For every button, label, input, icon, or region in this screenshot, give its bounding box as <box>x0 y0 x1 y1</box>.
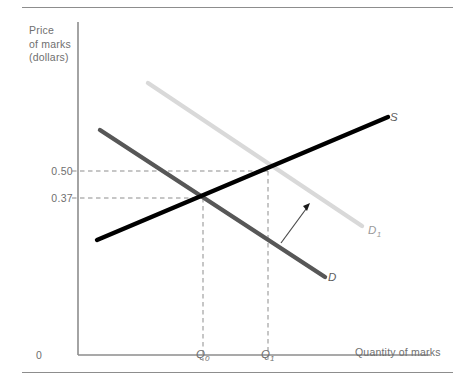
demand-shifted-curve-label-letter: D <box>368 224 376 236</box>
demand-shifted-curve-label: D1 <box>368 224 381 236</box>
x-tick-label-q1-letter: Q <box>261 348 270 360</box>
x-tick-label-q1-subscript: 1 <box>270 354 274 363</box>
y-axis-caption: Price of marks (dollars) <box>29 24 71 65</box>
demand-curve-initial <box>100 130 325 277</box>
supply-curve-label: S <box>390 111 398 123</box>
economics-figure: Price of marks (dollars) Quantity of mar… <box>0 0 475 382</box>
demand-shift-arrow <box>281 203 310 243</box>
demand-curve-label: D <box>328 271 336 283</box>
y-tick-label-050: 0.50 <box>39 165 73 177</box>
x-axis-caption: Quantity of marks <box>355 346 441 360</box>
gridline-group <box>72 171 268 361</box>
demand-shift-arrow-head <box>303 203 310 211</box>
x-tick-label-q0-subscript: 0 <box>205 354 209 363</box>
curve-group <box>97 83 388 277</box>
demand-shift-arrow-shaft <box>281 209 306 243</box>
supply-demand-plot <box>0 0 475 382</box>
x-tick-label-q0-letter: Q <box>196 348 205 360</box>
y-tick-label-037: 0.37 <box>39 192 73 204</box>
demand-shifted-curve-label-subscript: 1 <box>377 230 381 239</box>
x-tick-label-q0: Q0 <box>196 348 209 360</box>
axes-group <box>78 22 430 355</box>
origin-label: 0 <box>36 349 56 361</box>
x-tick-label-q1: Q1 <box>261 348 274 360</box>
